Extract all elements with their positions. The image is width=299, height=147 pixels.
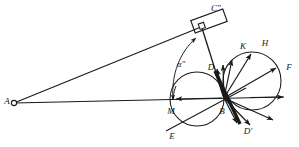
- label-d-prime: D': [243, 126, 253, 136]
- diagram-svg: A C" α" M B D D' E K H F: [0, 0, 299, 147]
- label-f: F: [285, 62, 292, 72]
- point-a-marker: [11, 100, 16, 105]
- label-d: D: [207, 62, 215, 72]
- baseline-arrow-right: [250, 97, 283, 98]
- label-k: K: [239, 41, 247, 51]
- label-m: M: [166, 106, 175, 116]
- label-e: E: [168, 131, 175, 141]
- label-b: B: [219, 106, 225, 116]
- figure-canvas: A C" α" M B D D' E K H F: [0, 0, 299, 147]
- label-h: H: [261, 38, 269, 48]
- angle-arc-alpha-tail: [173, 86, 176, 100]
- label-alpha-double-prime: α": [177, 59, 186, 69]
- velocity-vector-fan: [217, 54, 276, 125]
- pivot-c-marker: [198, 22, 205, 29]
- vector-b-to-f-upper: [224, 68, 276, 98]
- label-a: A: [3, 96, 10, 106]
- baseline-a-to-right: [14, 97, 284, 103]
- label-c-double-prime: C": [211, 3, 221, 13]
